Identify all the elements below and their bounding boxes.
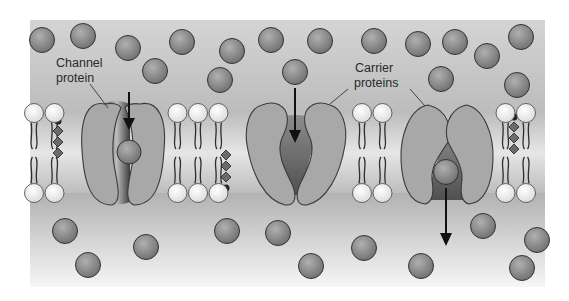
- phospholipid-head: [189, 184, 208, 203]
- phospholipid-head: [496, 184, 515, 203]
- solute-molecule: [510, 256, 535, 281]
- solute-molecule: [71, 24, 96, 49]
- phospholipid-head: [209, 184, 228, 203]
- solute-molecule: [76, 253, 101, 278]
- solute-molecule: [208, 68, 233, 93]
- solute-molecule: [475, 44, 500, 69]
- channel-protein: [82, 101, 165, 205]
- solute-molecule: [283, 60, 308, 85]
- phospholipid-head: [517, 184, 536, 203]
- solute-molecule: [362, 29, 387, 54]
- solute-molecule: [30, 28, 55, 53]
- solute-molecule: [509, 25, 534, 50]
- solute-molecule: [352, 236, 377, 261]
- phospholipid-head: [25, 104, 44, 123]
- membrane-transport-diagram: Channel protein Carrier proteins: [0, 0, 569, 301]
- solute-molecule: [143, 59, 168, 84]
- solute-molecule: [53, 219, 78, 244]
- phospholipid-head: [168, 104, 187, 123]
- solute-molecule: [116, 36, 141, 61]
- solute-molecule: [525, 228, 550, 253]
- solute-molecule: [429, 67, 454, 92]
- solute-molecule: [299, 254, 324, 279]
- phospholipid-head: [517, 104, 536, 123]
- phospholipid-head: [209, 104, 228, 123]
- solute-in-channel: [117, 140, 141, 164]
- phospholipid-head: [353, 184, 372, 203]
- carrier-proteins-label: Carrier proteins: [354, 61, 398, 90]
- solute-molecule: [406, 32, 431, 57]
- solute-molecule: [471, 214, 496, 239]
- phospholipid-head: [45, 184, 64, 203]
- phospholipid-head: [189, 104, 208, 123]
- solute-molecule: [308, 29, 333, 54]
- solute-molecule: [259, 28, 284, 53]
- solute-molecule: [409, 254, 434, 279]
- phospholipid-head: [353, 104, 372, 123]
- phospholipid-head: [373, 104, 392, 123]
- solute-molecule: [215, 219, 240, 244]
- solute-molecule: [505, 73, 530, 98]
- phospholipid-head: [168, 184, 187, 203]
- phospholipid-head: [496, 104, 515, 123]
- phospholipid-head: [373, 184, 392, 203]
- solute-molecule: [443, 30, 468, 55]
- solute-molecule: [220, 39, 245, 64]
- solute-molecule: [170, 30, 195, 55]
- solute-molecule: [134, 235, 159, 260]
- solute-molecule: [266, 221, 291, 246]
- phospholipid-head: [25, 184, 44, 203]
- solute-molecule: [434, 160, 459, 185]
- phospholipid-head: [45, 104, 64, 123]
